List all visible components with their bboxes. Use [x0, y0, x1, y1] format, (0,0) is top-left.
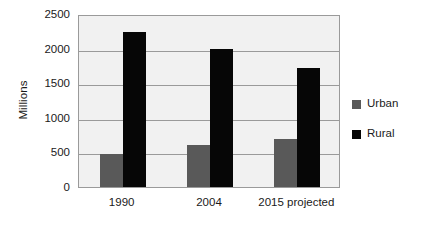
bar-urban-2	[274, 139, 297, 187]
x-axis-tick-label: 1990	[109, 196, 135, 208]
x-axis-tick-labels: 199020042015 projected	[78, 196, 340, 216]
legend-entry-rural[interactable]: Rural	[352, 127, 422, 141]
bar-group	[187, 16, 233, 187]
y-axis-tick-labels: 05001000150020002500	[30, 15, 74, 188]
bar-rural-2	[297, 68, 320, 187]
bar-group	[274, 16, 320, 187]
legend-label: Urban	[367, 98, 398, 110]
x-axis-tick-label: 2004	[196, 196, 222, 208]
x-axis-tick-label: 2015 projected	[258, 196, 334, 208]
bar-urban-1	[187, 145, 210, 187]
bar-group	[100, 16, 146, 187]
y-axis-tick-label: 2000	[44, 44, 70, 56]
legend-swatch-urban-icon	[352, 100, 361, 109]
chart-legend: UrbanRural	[352, 97, 422, 157]
bar-rural-1	[210, 49, 233, 187]
legend-entry-urban[interactable]: Urban	[352, 97, 422, 111]
y-axis-title-text: Millions	[17, 80, 29, 119]
bar-chart-figure: Millions 05001000150020002500 1990200420…	[0, 0, 425, 230]
legend-swatch-rural-icon	[352, 130, 361, 139]
y-axis-tick-label: 500	[51, 148, 70, 160]
bar-urban-0	[100, 154, 123, 187]
y-axis-tick-label: 2500	[44, 9, 70, 21]
legend-label: Rural	[367, 128, 394, 140]
y-axis-tick-label: 1000	[44, 113, 70, 125]
bars-layer	[79, 16, 339, 187]
plot-area	[78, 15, 340, 188]
bar-rural-0	[123, 32, 146, 187]
y-axis-tick-label: 0	[64, 182, 70, 194]
y-axis-tick-label: 1500	[44, 78, 70, 90]
